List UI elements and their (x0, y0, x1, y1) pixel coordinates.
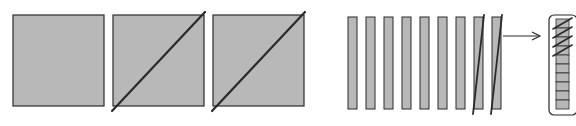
strip (402, 17, 411, 109)
square (13, 15, 104, 106)
stack-cell (556, 73, 569, 82)
stack-cell (556, 82, 569, 91)
strip (366, 17, 375, 109)
stack-cell (556, 91, 569, 100)
strip (384, 17, 393, 109)
stack-cell (556, 100, 569, 109)
strip (438, 17, 447, 109)
stack-cell (556, 55, 569, 64)
strip (420, 17, 429, 109)
strip (456, 17, 465, 109)
arrow-icon (503, 32, 540, 40)
square-group (13, 12, 305, 111)
fraction-diagram (0, 0, 576, 126)
stack-cell (556, 64, 569, 73)
strip (348, 17, 357, 109)
strip-group (348, 15, 502, 114)
stacked-column (549, 15, 576, 115)
